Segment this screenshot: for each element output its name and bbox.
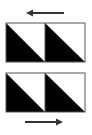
arrow-right-icon	[25, 119, 63, 126]
bottom-row-cell-1	[6, 73, 45, 112]
bottom-row-cell-2	[45, 73, 85, 112]
top-row	[6, 23, 85, 62]
top-row-cell-2	[45, 23, 85, 62]
top-row-cell-1	[6, 23, 45, 62]
diagram-canvas	[0, 0, 92, 135]
arrow-left-icon	[26, 10, 64, 17]
bottom-row	[6, 73, 85, 112]
